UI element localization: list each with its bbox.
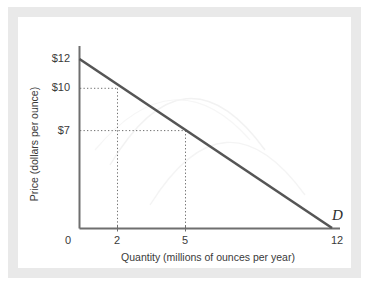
- x-tick-label-0: 0: [53, 234, 83, 246]
- x-tick-label-12: 12: [322, 234, 352, 246]
- y-tick-label-12: $12: [30, 52, 70, 64]
- x-tick-label-5: 5: [170, 234, 200, 246]
- y-tick-label-10: $10: [30, 81, 70, 93]
- demand-curve-label: D: [332, 207, 343, 224]
- demand-curve-line: [80, 59, 333, 228]
- y-tick-label-7: $7: [30, 124, 70, 136]
- x-axis-title: Quantity (millions of ounces per year): [79, 251, 337, 263]
- chart-page: Price (dollars per ounce) Quantity (mill…: [0, 0, 369, 285]
- x-tick-label-2: 2: [102, 234, 132, 246]
